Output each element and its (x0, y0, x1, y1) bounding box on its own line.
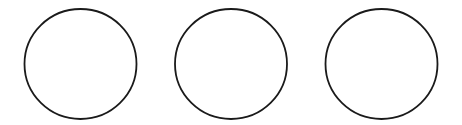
diagram-canvas (0, 0, 462, 125)
circle-2 (175, 9, 287, 119)
circles-diagram (0, 0, 462, 125)
circle-3 (326, 9, 438, 119)
circle-1 (25, 9, 137, 119)
